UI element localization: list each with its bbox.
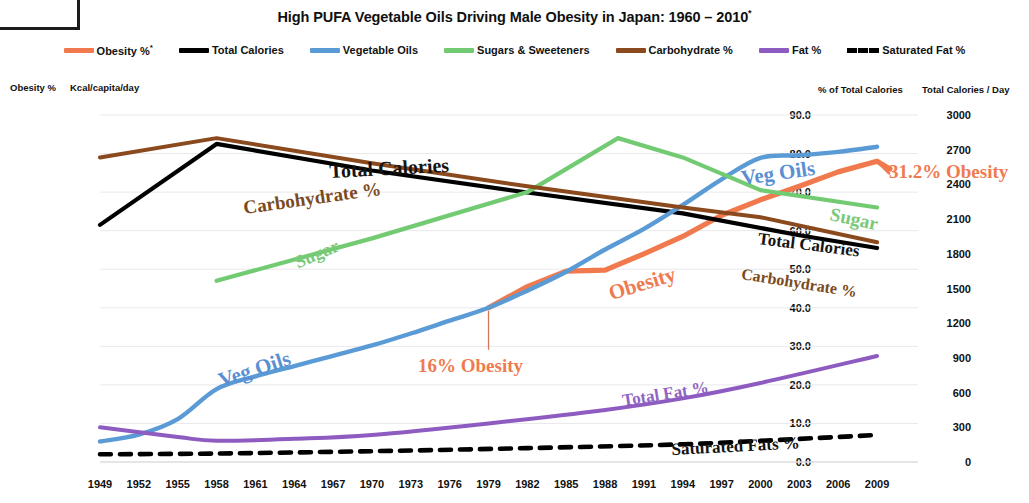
obesity-312-callout: 31.2% Obesity — [889, 161, 1008, 183]
chart-plot-area — [0, 0, 1029, 503]
obesity-16-callout: 16% Obesity — [418, 355, 523, 377]
